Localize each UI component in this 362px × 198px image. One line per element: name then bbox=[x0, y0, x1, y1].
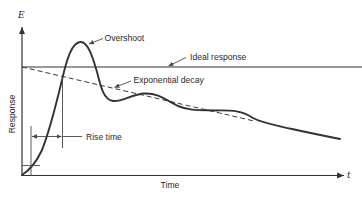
y-axis-label: Response bbox=[7, 94, 17, 133]
overshoot-leader bbox=[89, 39, 103, 45]
x-axis-symbol: t bbox=[347, 170, 351, 180]
x-axis-label: Time bbox=[161, 180, 180, 190]
exponential-decay-leader bbox=[115, 81, 132, 88]
response-curve bbox=[22, 42, 340, 175]
ideal-response-leader bbox=[169, 58, 187, 67]
ideal-response-label: Ideal response bbox=[190, 52, 247, 62]
exponential-decay-label: Exponential decay bbox=[134, 75, 205, 85]
response-diagram: E t Response Time Rise time Overshoot Id… bbox=[0, 0, 362, 198]
rise-time-label: Rise time bbox=[86, 132, 122, 142]
y-axis-symbol: E bbox=[17, 10, 25, 20]
overshoot-label: Overshoot bbox=[105, 33, 145, 43]
